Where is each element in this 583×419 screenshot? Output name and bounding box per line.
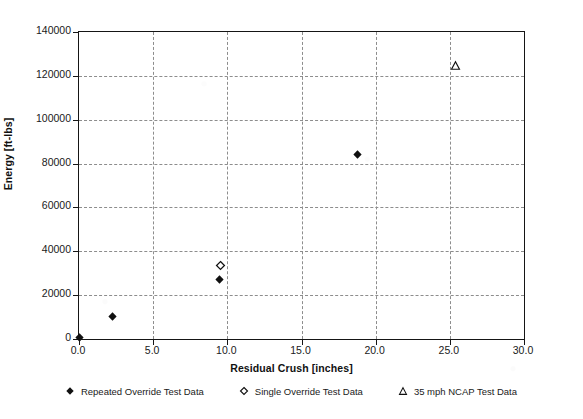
x-axis-tick-labels: 0.05.010.015.020.025.030.0 — [0, 344, 583, 358]
y-axis-tick — [73, 120, 79, 121]
gridline-horizontal — [79, 120, 524, 121]
legend-entry: Repeated Override Test Data — [66, 386, 204, 398]
gridline-vertical — [153, 32, 154, 339]
gridline-horizontal — [79, 76, 524, 77]
x-axis-tick-label: 25.0 — [439, 344, 459, 356]
legend-label: 35 mph NCAP Test Data — [414, 386, 517, 398]
gridline-vertical — [450, 32, 451, 339]
legend-entry: 35 mph NCAP Test Data — [399, 386, 517, 398]
open-triangle-icon — [399, 387, 409, 397]
y-axis-tick — [73, 76, 79, 77]
y-axis-tick — [73, 32, 79, 33]
y-axis-tick-label: 140000 — [36, 25, 71, 36]
gridline-horizontal — [79, 251, 524, 252]
y-axis-tick-label: 120000 — [36, 69, 71, 80]
gridline-horizontal — [79, 207, 524, 208]
gridline-vertical — [227, 32, 228, 339]
x-axis-tick-label: 30.0 — [513, 344, 533, 356]
gridline-vertical — [376, 32, 377, 339]
legend-label: Repeated Override Test Data — [81, 386, 204, 398]
gridline-horizontal — [79, 164, 524, 165]
plot-area — [78, 31, 525, 340]
data-point-open-triangle — [451, 61, 460, 70]
y-axis-tick — [73, 251, 79, 252]
y-axis-tick — [73, 295, 79, 296]
data-point-filled-diamond — [108, 312, 117, 321]
data-point-filled-diamond — [75, 333, 84, 342]
y-axis-tick-label: 60000 — [42, 200, 71, 211]
x-axis-tick-label: 0.0 — [71, 344, 86, 356]
data-point-filled-diamond — [215, 275, 224, 284]
x-axis-tick-label: 10.0 — [216, 344, 236, 356]
data-point-open-diamond — [216, 261, 225, 270]
x-axis-tick-label: 5.0 — [145, 344, 160, 356]
filled-diamond-icon — [66, 387, 76, 397]
chart-legend: Repeated Override Test DataSingle Overri… — [0, 384, 583, 400]
legend-entry: Single Override Test Data — [240, 386, 363, 398]
y-axis-title: Energy [ft-lbs] — [2, 64, 14, 244]
y-axis-tick-label: 0 — [65, 332, 71, 343]
y-axis-tick-label: 20000 — [42, 288, 71, 299]
y-axis-tick-label: 100000 — [36, 113, 71, 124]
y-axis-tick-label: 40000 — [42, 244, 71, 255]
gridline-vertical — [302, 32, 303, 339]
gridline-horizontal — [79, 295, 524, 296]
y-axis-tick-label: 80000 — [42, 157, 71, 168]
open-diamond-icon — [240, 387, 250, 397]
x-axis-title: Residual Crush [inches] — [0, 362, 583, 374]
legend-label: Single Override Test Data — [255, 386, 363, 398]
data-point-filled-diamond — [353, 150, 362, 159]
scatter-chart-figure: 020000400006000080000100000120000140000 … — [0, 0, 583, 419]
y-axis-tick — [73, 207, 79, 208]
x-axis-tick-label: 15.0 — [290, 344, 310, 356]
y-axis-tick — [73, 164, 79, 165]
x-axis-tick-label: 20.0 — [364, 344, 384, 356]
